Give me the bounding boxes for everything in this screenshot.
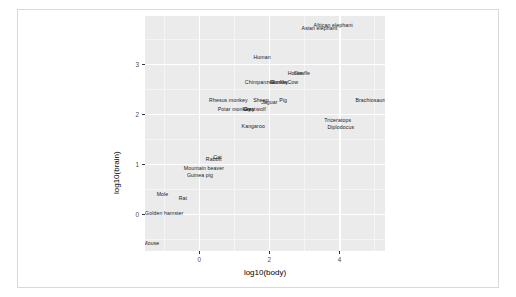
gridline-major-vertical bbox=[199, 16, 200, 251]
gridline-major-horizontal bbox=[145, 114, 385, 115]
x-tick-label: 2 bbox=[268, 256, 272, 263]
gridline-major-vertical bbox=[269, 16, 270, 251]
data-point-label: Horse bbox=[288, 71, 302, 76]
gridline-minor-vertical bbox=[234, 16, 235, 251]
gridline-minor-horizontal bbox=[145, 189, 385, 190]
data-point-label: Pig bbox=[279, 98, 287, 103]
data-point-label: Rhesus monkey bbox=[209, 98, 248, 103]
y-tick-mark bbox=[142, 114, 145, 115]
data-point-label: Golden hamster bbox=[145, 211, 183, 216]
x-axis-title: log10(body) bbox=[145, 268, 385, 277]
chart-figure: African elephantAsian elephantHumanGiraf… bbox=[0, 0, 516, 297]
gridline-major-horizontal bbox=[145, 164, 385, 165]
plot-panel: African elephantAsian elephantHumanGiraf… bbox=[145, 16, 385, 251]
y-tick-mark bbox=[142, 164, 145, 165]
gridline-minor-horizontal bbox=[145, 239, 385, 240]
data-point-label: Diplodocus bbox=[327, 125, 354, 130]
gridline-minor-vertical bbox=[374, 16, 375, 251]
gridline-minor-horizontal bbox=[145, 89, 385, 90]
data-point-label: Brachiosaurus bbox=[355, 98, 385, 103]
y-axis-title: log10(brain) bbox=[112, 151, 121, 194]
data-point-label: Mole bbox=[157, 192, 169, 197]
data-point-label: Guinea pig bbox=[187, 173, 213, 178]
data-point-label: Donkey bbox=[270, 80, 288, 85]
y-tick-label: 3 bbox=[123, 60, 139, 67]
data-point-label: Mountain beaver bbox=[184, 166, 224, 171]
data-point-label: Mouse bbox=[145, 241, 159, 246]
x-tick-mark bbox=[269, 251, 270, 254]
data-point-label: Jaguar bbox=[261, 100, 278, 105]
gridline-major-horizontal bbox=[145, 64, 385, 65]
y-tick-mark bbox=[142, 214, 145, 215]
gridline-minor-horizontal bbox=[145, 39, 385, 40]
data-point-label: Human bbox=[253, 55, 270, 60]
data-point-label: Triceratops bbox=[324, 118, 351, 123]
x-tick-mark bbox=[199, 251, 200, 254]
data-point-label: Grey wolf bbox=[243, 107, 266, 112]
x-tick-label: 0 bbox=[198, 256, 202, 263]
y-tick-mark bbox=[142, 64, 145, 65]
gridline-minor-vertical bbox=[304, 16, 305, 251]
gridline-major-vertical bbox=[339, 16, 340, 251]
data-point-label: Kangaroo bbox=[242, 124, 265, 129]
data-point-label: Rat bbox=[179, 196, 187, 201]
x-tick-mark bbox=[339, 251, 340, 254]
data-point-label: Cow bbox=[287, 80, 298, 85]
gridline-minor-horizontal bbox=[145, 139, 385, 140]
y-tick-label: 1 bbox=[123, 160, 139, 167]
y-tick-label: 0 bbox=[123, 210, 139, 217]
x-tick-label: 4 bbox=[338, 256, 342, 263]
data-point-label: Asian elephant bbox=[302, 26, 338, 31]
y-tick-label: 2 bbox=[123, 110, 139, 117]
data-point-label: Rabbit bbox=[206, 157, 222, 162]
